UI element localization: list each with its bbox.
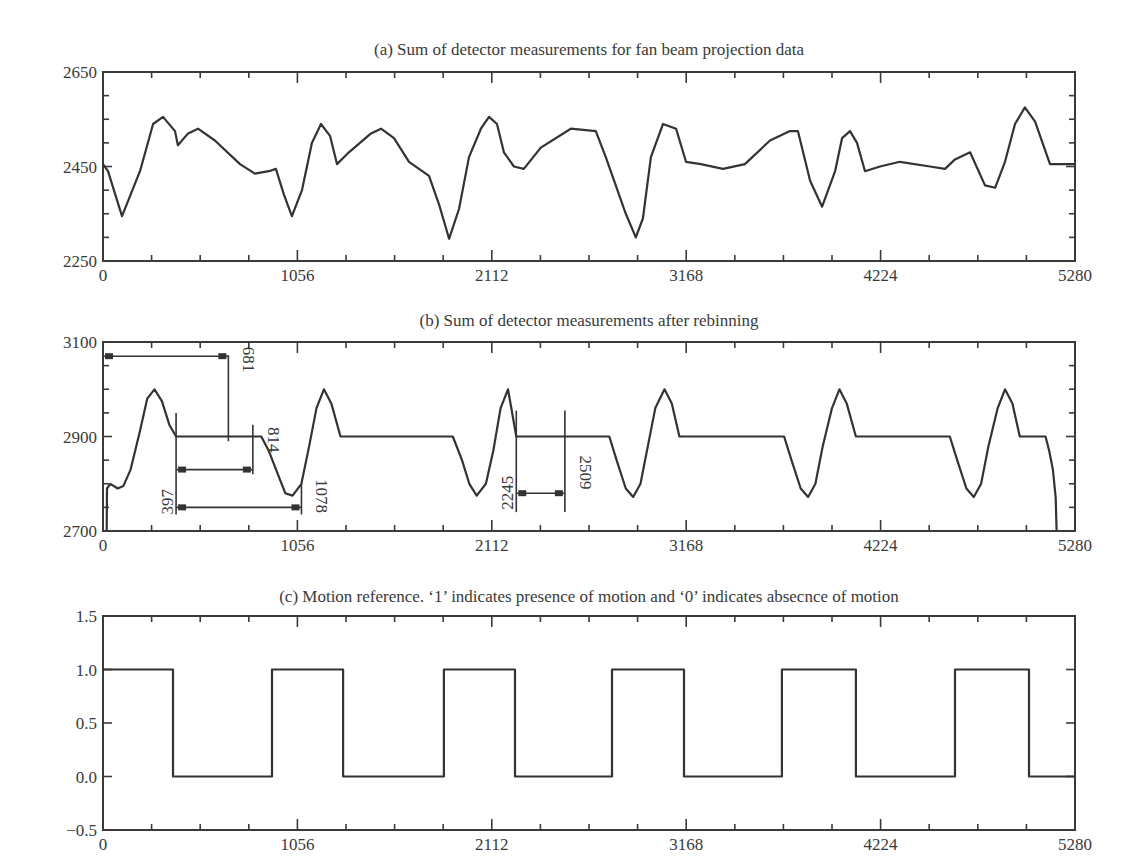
annotation-label: 2245 — [498, 476, 517, 510]
y-tick-label: 1.0 — [76, 661, 97, 680]
y-tick-label: 2650 — [63, 63, 97, 82]
y-tick-label: 1.5 — [76, 607, 97, 626]
panel-c-ticks — [103, 616, 1075, 830]
y-tick-label: 2250 — [63, 252, 97, 271]
panel-b-x-axis: 010562112316842245280 — [99, 536, 1092, 555]
panel-b: (b) Sum of detector measurements after r… — [63, 311, 1092, 555]
x-tick-label: 5280 — [1058, 536, 1092, 555]
arrow-head-icon — [518, 490, 526, 496]
x-tick-label: 1056 — [280, 835, 314, 854]
panel-b-title: (b) Sum of detector measurements after r… — [420, 311, 759, 330]
x-tick-label: 5280 — [1058, 835, 1092, 854]
x-tick-label: 4224 — [864, 835, 899, 854]
arrow-head-icon — [178, 467, 186, 473]
panel-a-y-axis: 225024502650 — [63, 63, 97, 271]
arrow-head-icon — [178, 504, 186, 510]
x-tick-label: 4224 — [864, 266, 899, 285]
arrow-head-icon — [291, 504, 299, 510]
arrow-head-icon — [555, 490, 563, 496]
panel-c-y-axis: −0.50.00.51.01.5 — [66, 607, 97, 840]
x-tick-label: 0 — [99, 266, 108, 285]
panel-b-y-axis: 270029003100 — [63, 333, 97, 541]
x-tick-label: 3168 — [669, 835, 703, 854]
annotation-label: 397 — [158, 488, 177, 514]
x-tick-label: 2112 — [475, 266, 508, 285]
y-tick-label: 0.5 — [76, 714, 97, 733]
x-tick-label: 1056 — [280, 266, 314, 285]
annotation-label: 1078 — [312, 479, 331, 513]
panel-c-frame — [103, 616, 1075, 830]
x-tick-label: 5280 — [1058, 266, 1092, 285]
panel-a-x-axis: 010562112316842245280 — [99, 266, 1092, 285]
annotation-label: 814 — [264, 427, 283, 453]
x-tick-label: 2112 — [475, 835, 508, 854]
x-tick-label: 3168 — [669, 266, 703, 285]
panel-b-annotations: 681397814107822452509 — [103, 347, 595, 515]
panel-a-title: (a) Sum of detector measurements for fan… — [374, 40, 804, 59]
y-tick-label: 2900 — [63, 428, 97, 447]
x-tick-label: 0 — [99, 536, 108, 555]
x-tick-label: 3168 — [669, 536, 703, 555]
x-tick-label: 1056 — [280, 536, 314, 555]
panel-a-series-line — [103, 107, 1075, 238]
arrow-head-icon — [243, 467, 251, 473]
y-tick-label: 3100 — [63, 333, 97, 352]
panel-c: (c) Motion reference. ‘1’ indicates pres… — [66, 587, 1092, 854]
x-tick-label: 0 — [99, 835, 108, 854]
panel-a: (a) Sum of detector measurements for fan… — [63, 40, 1092, 285]
y-tick-label: 2450 — [63, 158, 97, 177]
y-tick-label: 2700 — [63, 522, 97, 541]
annotation-label: 2509 — [576, 455, 595, 489]
panel-c-series-line — [103, 670, 1075, 777]
x-tick-label: 4224 — [864, 536, 899, 555]
annotation-label: 681 — [239, 347, 258, 373]
figure: (a) Sum of detector measurements for fan… — [0, 0, 1148, 862]
arrow-head-icon — [218, 353, 226, 359]
panel-c-title: (c) Motion reference. ‘1’ indicates pres… — [279, 587, 899, 606]
y-tick-label: 0.0 — [76, 768, 97, 787]
y-tick-label: −0.5 — [66, 821, 97, 840]
x-tick-label: 2112 — [475, 536, 508, 555]
panel-c-x-axis: 010562112316842245280 — [99, 835, 1092, 854]
arrow-head-icon — [105, 353, 113, 359]
